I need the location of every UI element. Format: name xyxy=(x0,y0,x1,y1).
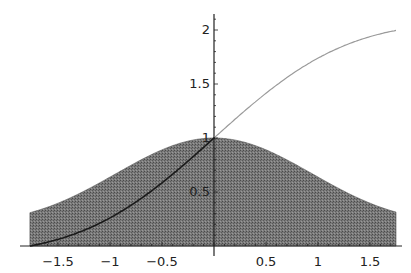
y-tick-label: 0.5 xyxy=(189,184,210,199)
x-tick-label: 1 xyxy=(314,254,322,269)
x-tick-label: 0.5 xyxy=(256,254,277,269)
y-tick-label: 1 xyxy=(202,130,210,145)
x-tick-label: −0.5 xyxy=(146,254,178,269)
x-tick-label: −1 xyxy=(100,254,119,269)
x-tick-label: −1.5 xyxy=(42,254,74,269)
x-tick-label: 1.5 xyxy=(360,254,381,269)
chart: −1.5−1−0.50.511.50.511.52 xyxy=(0,0,411,273)
y-tick-label: 1.5 xyxy=(189,76,210,91)
y-tick-label: 2 xyxy=(202,22,210,37)
